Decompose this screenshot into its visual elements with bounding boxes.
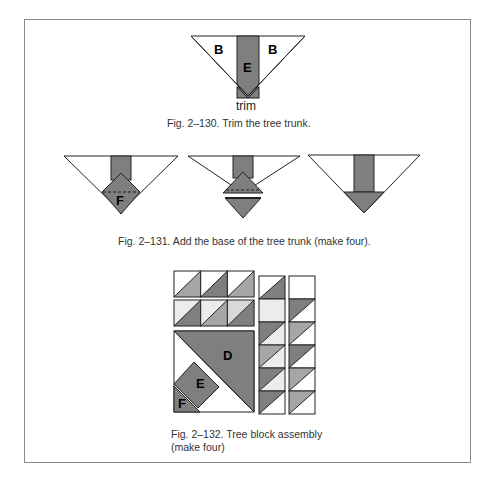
hst-top-row-2-cell-3	[227, 300, 254, 326]
label-e-strip: E	[196, 376, 205, 391]
caption-fig-130: Fig. 2–130. Trim the tree trunk.	[167, 117, 311, 129]
hst-side-col-1-cell-1	[259, 276, 285, 299]
hst-top-row-2-cell-2	[201, 300, 228, 326]
label-e: E	[243, 60, 252, 75]
caption-fig-132: Fig. 2–132. Tree block assembly (make fo…	[171, 428, 341, 454]
hst-top-row-1-cell-3	[227, 271, 254, 297]
hst-side-col-2-cell-4	[289, 345, 315, 368]
caption-fig-131: Fig. 2–131. Add the base of the tree tru…	[118, 235, 371, 247]
fig-131-panel-3	[308, 155, 420, 213]
hst-side-col-1-cell-5	[259, 368, 285, 391]
hst-side-col-1-cell-2	[259, 299, 285, 322]
caption-fig-132-line-2: (make four)	[171, 441, 341, 454]
hst-top-row-1-cell-1	[174, 271, 201, 297]
label-d: D	[223, 348, 232, 363]
hst-side-col-2-cell-2	[289, 299, 315, 322]
label-f: F	[116, 193, 124, 208]
label-b-left: B	[214, 42, 223, 57]
hst-side-col-1-cell-3	[259, 322, 285, 345]
hst-side-col-2-cell-1	[289, 276, 315, 299]
trim-label: trim	[236, 99, 256, 113]
fig-132-big-square	[174, 331, 254, 412]
label-b-right: B	[268, 42, 277, 57]
caption-fig-132-line-1: Fig. 2–132. Tree block assembly	[171, 428, 341, 441]
hst-side-col-2-cell-3	[289, 322, 315, 345]
fig-131-panel-2	[188, 156, 300, 218]
hst-side-col-1-cell-4	[259, 345, 285, 368]
hst-top-row-2-cell-1	[174, 300, 201, 326]
hst-top-row-1-cell-2	[201, 271, 228, 297]
label-f-corner: F	[178, 396, 186, 411]
hst-side-col-2-cell-5	[289, 368, 315, 391]
hst-side-col-1-cell-6	[259, 391, 285, 414]
hst-side-col-2-cell-6	[289, 391, 315, 414]
